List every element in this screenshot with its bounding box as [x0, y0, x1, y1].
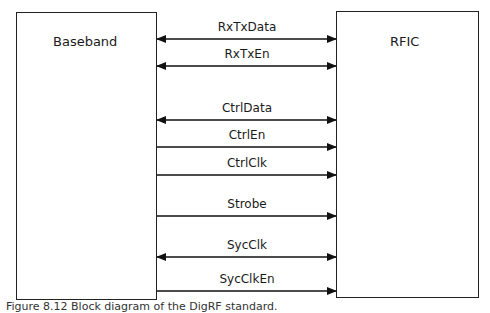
signal-label: CtrlClk — [157, 156, 337, 170]
signal-label: Strobe — [157, 197, 337, 211]
signal-label: RxTxEn — [157, 47, 337, 61]
signal-label: RxTxData — [157, 20, 337, 34]
signal-label: SycClk — [157, 238, 337, 252]
signal-label: CtrlEn — [157, 128, 337, 142]
figure-caption: Figure 8.12 Block diagram of the DigRF s… — [6, 300, 277, 313]
signal-label: CtrlData — [157, 101, 337, 115]
signal-label: SycClkEn — [157, 272, 337, 286]
